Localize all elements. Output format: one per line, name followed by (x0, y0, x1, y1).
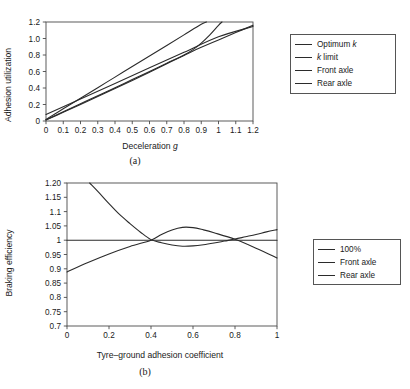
y-tick-label: 1.15 (45, 193, 61, 202)
panel-b-y-tick-labels: 0.70.750.80.850.90.9511.051.11.151.20 (45, 179, 61, 331)
panel-b-axes-frame (64, 183, 277, 329)
panel-a-caption: (a) (0, 155, 270, 166)
panel-a-legend: Optimum k k limit Front axle Rear axle (290, 34, 396, 94)
x-tick-label: 1.1 (230, 126, 242, 135)
legend-item-front-axle-b: Front axle (314, 256, 400, 269)
y-tick-label: 0.4 (29, 84, 41, 93)
y-tick-label: 0.2 (29, 101, 41, 110)
svg-text:Tyre–ground adhesion coefficie: Tyre–ground adhesion coefficient (97, 350, 224, 360)
y-tick-label: 0.75 (45, 308, 61, 317)
y-tick-label: 1.0 (29, 35, 41, 44)
svg-text:Deceleration g: Deceleration g (122, 141, 178, 151)
legend-label-front-axle-a: Front axle (317, 64, 353, 77)
x-tick-label: 0.4 (145, 331, 157, 340)
panel-a-x-tick-labels: 00.10.20.30.40.50.60.70.80.911.11.2 (44, 126, 259, 135)
y-tick-label: 0.9 (50, 265, 62, 274)
y-tick-label: 1.05 (45, 222, 61, 231)
panel-a-x-axis-title: Deceleration g (122, 141, 178, 151)
legend-label-rear-axle-a: Rear axle (317, 77, 352, 90)
y-tick-label: 1 (56, 236, 61, 245)
x-tick-label: 1.2 (247, 126, 259, 135)
x-tick-label: 0.7 (161, 126, 173, 135)
panel-b-series-lines (67, 183, 277, 272)
series-line (90, 183, 277, 246)
panel-b-plot: Braking efficiency 0.70.750.80.850.90.95… (0, 178, 290, 363)
y-tick-label: 1.20 (45, 179, 61, 188)
legend-item-front-axle-a: Front axle (291, 64, 395, 77)
y-tick-label: 0.6 (29, 68, 41, 77)
y-tick-label: 0.7 (50, 322, 62, 331)
legend-item-k-limit: k limit (291, 51, 395, 64)
legend-swatch-optimum-k (295, 44, 312, 45)
x-tick-label: 0.2 (103, 331, 115, 340)
legend-item-optimum-k: Optimum k (291, 38, 395, 51)
y-tick-label: 0.95 (45, 251, 61, 260)
y-tick-label: 0 (35, 117, 40, 126)
figure-container: Adhesion utilization 00.20.40.60.81.01.2… (0, 0, 410, 389)
panel-a-series-lines (46, 22, 253, 120)
panel-a: Adhesion utilization 00.20.40.60.81.01.2… (0, 8, 270, 153)
legend-label-hundred-percent: 100% (340, 243, 361, 256)
series-line (46, 22, 222, 120)
x-tick-label: 0.6 (144, 126, 156, 135)
x-tick-label: 1 (275, 331, 280, 340)
legend-item-rear-axle-b: Rear axle (314, 269, 400, 282)
legend-label-k-limit: k limit (317, 51, 338, 64)
legend-swatch-rear-axle-a (295, 83, 312, 84)
x-tick-label: 0.3 (92, 126, 104, 135)
x-tick-label: 0.4 (109, 126, 121, 135)
legend-swatch-front-axle-a (295, 70, 312, 71)
y-tick-label: 1.2 (29, 18, 41, 27)
legend-label-optimum-k: Optimum k (317, 38, 357, 51)
legend-item-hundred-percent: 100% (314, 243, 400, 256)
y-tick-label: 1.1 (50, 208, 62, 217)
series-line (46, 22, 206, 119)
x-tick-label: 0.8 (229, 331, 241, 340)
legend-label-rear-axle-b: Rear axle (340, 269, 375, 282)
legend-swatch-rear-axle-b (318, 275, 335, 276)
panel-b-caption: (b) (0, 366, 290, 377)
y-tick-label: 0.8 (29, 51, 41, 60)
panel-b-legend: 100% Front axle Rear axle (313, 239, 401, 285)
x-tick-label: 0.9 (196, 126, 208, 135)
panel-a-y-tick-labels: 00.20.40.60.81.01.2 (29, 18, 41, 126)
legend-label-front-axle-b: Front axle (340, 256, 376, 269)
legend-swatch-front-axle-b (318, 262, 335, 263)
panel-b-x-axis-title: Tyre–ground adhesion coefficient (97, 350, 224, 360)
x-tick-label: 0.1 (58, 126, 70, 135)
series-line (46, 25, 253, 120)
x-tick-label: 0 (44, 126, 49, 135)
x-tick-label: 1 (216, 126, 221, 135)
legend-item-rear-axle-a: Rear axle (291, 77, 395, 90)
panel-b-y-axis-title: Braking efficiency (4, 229, 14, 297)
x-tick-label: 0.2 (75, 126, 87, 135)
panel-b: Braking efficiency 0.70.750.80.850.90.95… (0, 178, 290, 363)
series-line (67, 227, 277, 272)
panel-a-plot: Adhesion utilization 00.20.40.60.81.01.2… (0, 8, 270, 153)
legend-swatch-hundred-percent (318, 249, 335, 250)
y-tick-label: 0.8 (50, 293, 62, 302)
legend-swatch-k-limit (295, 57, 312, 58)
x-tick-label: 0.8 (178, 126, 190, 135)
series-line (46, 27, 253, 115)
x-tick-label: 0.5 (127, 126, 139, 135)
y-tick-label: 0.85 (45, 279, 61, 288)
x-tick-label: 0.6 (187, 331, 199, 340)
x-tick-label: 0 (65, 331, 70, 340)
panel-a-y-axis-title: Adhesion utilization (3, 48, 13, 122)
panel-b-x-tick-labels: 00.20.40.60.81 (65, 331, 280, 340)
